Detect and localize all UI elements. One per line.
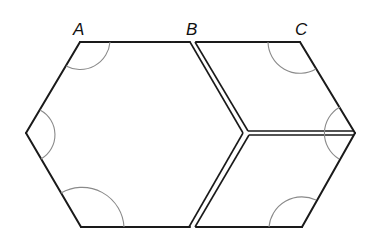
vertex-label-b: B [186, 20, 197, 39]
vertex-label-a: A [72, 20, 84, 39]
edge-left-bottomleft [26, 133, 81, 227]
edge-center-bottom-2 [195, 135, 249, 227]
angle-arc-left [40, 110, 55, 159]
edge-b-center-1 [190, 42, 243, 133]
edge-a-left [26, 42, 80, 133]
edge-center-bottom-1 [189, 133, 243, 227]
angle-arc-bottom-right [269, 197, 316, 227]
angle-arc-right [324, 107, 340, 159]
edge-b-center-2 [195, 42, 248, 131]
hexagon-diagram: A B C [0, 0, 381, 246]
internal-double-edges [189, 42, 354, 227]
vertex-label-c: C [295, 20, 308, 39]
edge-right-bottomright [302, 133, 355, 227]
